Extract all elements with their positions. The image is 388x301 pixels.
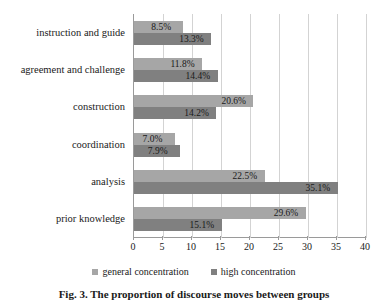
category-label: agreement and challenge [0,64,125,76]
bar-value-label: 29.6% [274,207,299,219]
x-tick-label: 20 [244,240,254,253]
bar-value-label: 7.0% [143,133,163,145]
category-label: instruction and guide [0,27,125,39]
x-tick-label: 35 [331,240,341,253]
bar-value-label: 35.1% [306,182,331,194]
gridline [279,14,280,238]
x-tick-label: 30 [302,240,312,253]
plot-area: 8.5%13.3%11.8%14.4%20.6%14.2%7.0%7.9%22.… [133,14,366,238]
category-label: analysis [0,176,125,188]
category-label: construction [0,101,125,113]
x-tick-label: 25 [273,240,283,253]
gridline [337,14,338,238]
x-tick-label: 5 [160,240,165,253]
bar-value-label: 22.5% [233,170,258,182]
bar-value-label: 15.1% [190,219,215,231]
chart-legend: general concentrationhigh concentration [0,266,388,278]
x-tick-label: 10 [186,240,196,253]
bar-value-label: 11.8% [170,58,194,70]
gridline [192,14,193,238]
legend-swatch-icon [92,269,98,275]
x-tick-label: 40 [360,240,370,253]
gridline [221,14,222,238]
category-label: coordination [0,139,125,151]
gridline [250,14,251,238]
figure-caption: Fig. 3. The proportion of discourse move… [0,288,388,301]
legend-swatch-icon [211,269,217,275]
bar-value-label: 13.3% [179,33,204,45]
gridline [163,14,164,238]
gridline [366,14,367,238]
legend-item[interactable]: high concentration [211,266,296,278]
legend-item[interactable]: general concentration [92,266,188,278]
bar-value-label: 20.6% [221,95,246,107]
legend-label: high concentration [221,266,296,278]
bar-value-label: 14.4% [186,70,211,82]
gridline [308,14,309,238]
x-tick-label: 0 [131,240,136,253]
category-label: prior knowledge [0,213,125,225]
legend-label: general concentration [102,266,188,278]
bar-value-label: 14.2% [184,107,209,119]
bar-value-label: 7.9% [148,145,168,157]
x-axis-tick-labels: 0510152025303540 [133,240,365,254]
x-tick-label: 15 [215,240,225,253]
bar-value-label: 8.5% [151,21,171,33]
category-axis-labels: instruction and guideagreement and chall… [0,14,129,238]
